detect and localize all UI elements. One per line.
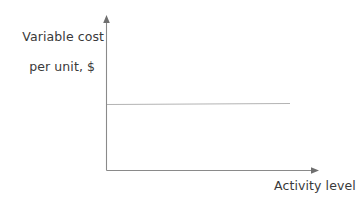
y-axis-label-line1: Variable cost — [22, 29, 104, 44]
x-axis-label: Activity level — [274, 178, 356, 193]
variable-cost-per-unit-chart: Variable cost per unit, $ Activity level — [0, 0, 362, 203]
y-axis-label: Variable cost per unit, $ — [6, 14, 102, 89]
y-axis-label-line2: per unit, $ — [29, 59, 95, 74]
y-axis-arrowhead-icon — [103, 15, 110, 23]
x-axis-arrowhead-icon — [311, 167, 319, 174]
variable-cost-series-line — [107, 104, 290, 105]
